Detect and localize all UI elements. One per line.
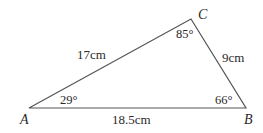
side-label-ac: 17cm (77, 47, 106, 62)
vertex-label-a: A (19, 112, 29, 127)
side-label-ab: 18.5cm (112, 112, 151, 127)
angle-label-a: 29° (60, 93, 78, 107)
angle-label-c: 85° (176, 27, 194, 41)
vertex-label-c: C (198, 7, 208, 22)
vertex-label-b: B (244, 112, 253, 127)
triangle-diagram: A B C 17cm 9cm 18.5cm 29° 66° 85° (0, 0, 263, 133)
angle-label-b: 66° (215, 93, 233, 107)
side-label-cb: 9cm (222, 50, 244, 65)
